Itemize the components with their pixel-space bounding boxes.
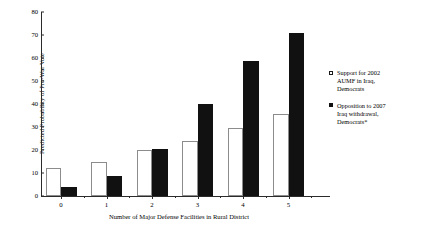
x-tick-label: 4 (241, 202, 244, 209)
bar-opposition-2 (152, 149, 168, 196)
y-tick-label: 80 (31, 9, 38, 16)
legend-label-line1: Opposition to 2007 (337, 102, 441, 110)
legend-label-line3: Democrats (337, 85, 441, 93)
legend-label-line2: Iraq withdrawal, (337, 110, 441, 118)
x-minor-tick-mark (220, 196, 221, 198)
bar-opposition-0 (61, 187, 77, 196)
y-tick-mark (41, 127, 44, 128)
y-tick-mark (41, 173, 44, 174)
legend-label-line2: AUMF in Iraq, (337, 77, 441, 85)
legend-swatch-white-icon (329, 71, 333, 75)
y-tick-label: 10 (31, 170, 38, 177)
x-tick-label: 0 (59, 202, 62, 209)
x-tick-mark (61, 196, 62, 199)
y-tick-label: 60 (31, 55, 38, 62)
x-tick-label: 1 (105, 202, 108, 209)
legend-label-line1: Support for 2002 (337, 69, 441, 77)
y-tick-mark (41, 12, 44, 13)
x-tick-mark (198, 196, 199, 199)
bar-support-5 (273, 114, 289, 196)
y-tick-label: 0 (35, 193, 38, 200)
legend-item-opposition-2007-withdrawal: Opposition to 2007 Iraq withdrawal, Demo… (329, 102, 441, 127)
x-minor-tick-mark (129, 196, 130, 198)
bar-support-1 (91, 162, 107, 197)
y-tick-label: 20 (31, 147, 38, 154)
x-tick-mark (152, 196, 153, 199)
bar-opposition-3 (198, 104, 214, 196)
y-tick-mark (41, 58, 44, 59)
bar-opposition-4 (243, 61, 259, 196)
x-tick-mark (243, 196, 244, 199)
x-minor-tick-mark (311, 196, 312, 198)
y-tick-label: 50 (31, 78, 38, 85)
legend-swatch-black-icon (329, 103, 333, 107)
x-tick-label: 3 (196, 202, 199, 209)
chart-legend: Support for 2002 AUMF in Iraq, Democrats… (329, 69, 441, 134)
legend-label-line3: Democrats* (337, 118, 441, 126)
x-minor-tick-mark (266, 196, 267, 198)
x-minor-tick-mark (175, 196, 176, 198)
plot-area: 01020304050607080 012345 (41, 12, 317, 196)
y-tick-mark (41, 35, 44, 36)
bar-opposition-1 (107, 176, 123, 196)
x-tick-label: 5 (287, 202, 290, 209)
bar-opposition-5 (289, 33, 305, 196)
x-tick-mark (289, 196, 290, 199)
y-tick-label: 40 (31, 101, 38, 108)
x-axis-title: Number of Major Defense Facilities in Ru… (41, 213, 317, 220)
bar-support-2 (137, 150, 153, 196)
bar-support-3 (182, 141, 198, 196)
y-tick-mark (41, 196, 44, 197)
x-tick-label: 2 (150, 202, 153, 209)
y-tick-label: 30 (31, 124, 38, 131)
y-tick-mark (41, 150, 44, 151)
y-tick-mark (41, 81, 44, 82)
bar-chart: Predicted Probability of Pro-War Vote 01… (0, 0, 445, 243)
y-tick-label: 70 (31, 32, 38, 39)
legend-item-support-2002-aumf: Support for 2002 AUMF in Iraq, Democrats (329, 69, 441, 94)
bar-support-4 (228, 128, 244, 196)
y-tick-mark (41, 104, 44, 105)
x-tick-mark (107, 196, 108, 199)
bar-support-0 (46, 168, 62, 196)
x-minor-tick-mark (84, 196, 85, 198)
